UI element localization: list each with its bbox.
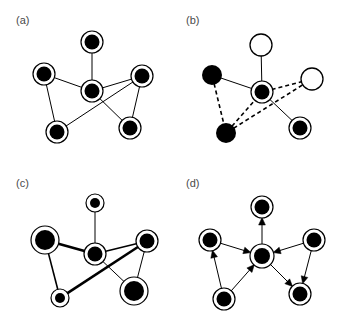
edge [53,77,82,87]
edge [269,99,292,121]
network-graph-figure: (a) (b) (c) (d) [0,0,341,326]
arrowhead-icon [243,247,251,253]
arrowhead-icon [259,218,266,226]
edge-dashed [214,84,224,125]
panel-b-label: (b) [186,14,199,27]
edge [58,244,86,252]
node-layer [33,31,153,143]
node-filled-core [293,287,308,302]
node-filled-core [203,233,218,248]
node-filled-core [255,85,270,100]
edge-directed [231,268,251,291]
edge [137,251,144,279]
panel-d: (d) [170,163,341,326]
edge [46,84,55,122]
edge [132,86,140,119]
edge-dashed [272,82,303,90]
node-filled-core [88,247,103,262]
node-filled-core [135,69,150,84]
edge-directed [304,250,312,279]
node-filled-core [55,293,65,303]
node-filled-core [124,281,144,301]
arrowhead-icon [273,247,281,253]
node-filled-core [85,35,100,50]
node-filled-core [217,292,232,307]
node-layer [202,34,323,143]
node-filled-core [123,121,138,136]
node-filled-core [307,233,322,248]
node-filled [202,65,222,85]
panel-c-label: (c) [16,177,29,190]
node-filled-core [85,84,100,99]
edge-dashed [232,100,255,127]
node-layer [199,196,325,310]
edge-directed [270,264,289,283]
edge [102,79,133,88]
node-layer [31,194,158,307]
node-open [301,68,323,90]
panel-a: (a) [0,0,171,163]
node-filled-core [140,234,155,249]
node-open [250,34,272,56]
edge [261,55,262,82]
panel-a-label: (a) [16,14,29,27]
panel-c: (c) [0,163,171,326]
edge-directed [278,243,305,251]
node-filled-core [50,125,65,140]
node-filled-core [255,200,270,215]
panel-b: (b) [170,0,341,163]
node-filled-core [90,198,100,208]
node-filled-core [35,230,55,250]
panel-d-label: (d) [186,177,199,190]
node-filled [216,123,236,143]
node-filled-core [293,121,308,136]
node-filled-core [37,67,52,82]
edge-directed [220,243,247,251]
edge [221,78,253,89]
node-filled-core [254,248,270,264]
edge [48,253,58,291]
edge-directed [214,255,222,289]
